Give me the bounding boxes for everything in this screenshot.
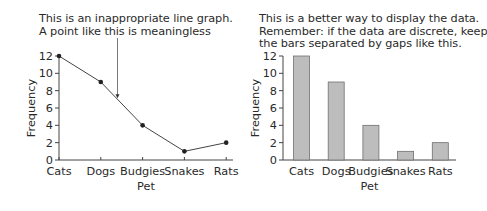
bar <box>328 82 344 160</box>
bar-chart-y-tick-label: 12 <box>263 50 277 63</box>
line-chart-x-tick-label: Rats <box>214 165 239 178</box>
line-chart-x-tick-label: Snakes <box>164 165 204 178</box>
line-chart-x-axis-title: Pet <box>137 180 155 193</box>
bar-chart-y-tick-label: 10 <box>263 67 277 80</box>
line-chart-x-tick-label: Dogs <box>86 165 115 178</box>
bar-chart-y-tick-label: 2 <box>270 137 277 150</box>
bar-chart-y-tick-label: 4 <box>270 119 277 132</box>
bar <box>363 125 379 160</box>
line-data-point <box>99 80 104 85</box>
bar <box>432 143 448 160</box>
bar-chart-y-tick-label: 6 <box>270 102 277 115</box>
bar-chart-x-tick-label: Cats <box>289 165 314 178</box>
line-chart-y-tick-label: 6 <box>46 102 53 115</box>
line-chart-y-tick-label: 12 <box>39 50 53 63</box>
bar <box>398 151 414 160</box>
line-data-point <box>140 123 145 128</box>
line-chart-y-tick-label: 8 <box>46 85 53 98</box>
line-chart-y-tick-label: 10 <box>39 67 53 80</box>
line-series <box>59 56 226 151</box>
line-chart-x-tick-label: Cats <box>46 165 71 178</box>
line-chart-x-tick-label: Budgies <box>120 165 165 178</box>
line-chart-y-tick-label: 4 <box>46 119 53 132</box>
bar-chart-x-axis-title: Pet <box>361 180 379 193</box>
bar-chart-x-tick-label: Rats <box>428 165 453 178</box>
line-chart-y-axis-title: Frequency <box>25 79 38 138</box>
line-data-point <box>182 149 187 154</box>
bar-chart-y-axis-title: Frequency <box>249 79 262 138</box>
bar-chart: 024681012CatsDogsBudgiesSnakesRatsPetFre… <box>249 50 456 193</box>
line-data-point <box>57 54 62 59</box>
bar-chart-y-tick-label: 0 <box>270 154 277 167</box>
line-chart-y-tick-label: 2 <box>46 137 53 150</box>
line-data-point <box>224 140 229 145</box>
line-chart: 024681012CatsDogsBudgiesSnakesRatsPetFre… <box>25 38 239 193</box>
bar-chart-y-tick-label: 8 <box>270 85 277 98</box>
bar-chart-x-tick-label: Dogs <box>322 165 351 178</box>
bar-chart-x-tick-label: Snakes <box>385 165 425 178</box>
bar <box>294 56 310 160</box>
